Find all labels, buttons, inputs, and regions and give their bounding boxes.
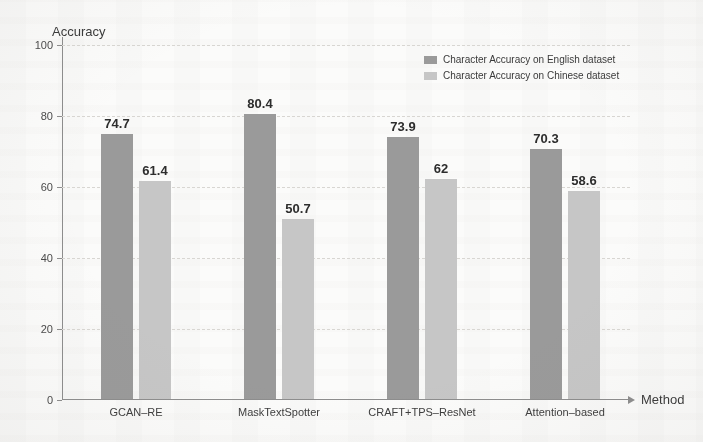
- bar-value-label: 70.3: [533, 131, 558, 146]
- legend-swatch: [424, 72, 437, 80]
- y-axis-tick-label: 80: [41, 110, 53, 122]
- bar-value-label: 74.7: [104, 116, 129, 131]
- x-axis-title: Method: [641, 392, 684, 407]
- legend-label: Character Accuracy on English dataset: [443, 54, 615, 65]
- y-axis-tick-mark: [57, 45, 62, 46]
- bar-value-label: 50.7: [285, 201, 310, 216]
- y-axis-tick-mark: [57, 258, 62, 259]
- plot-area: 020406080100 74.761.480.450.773.96270.35…: [62, 45, 630, 400]
- legend-label: Character Accuracy on Chinese dataset: [443, 70, 619, 81]
- x-axis-category-label: Attention–based: [525, 406, 605, 418]
- bar: 80.4: [244, 114, 276, 399]
- bar-value-label: 62: [434, 161, 448, 176]
- x-axis-line: [62, 399, 630, 400]
- bar-value-label: 61.4: [142, 163, 167, 178]
- bar-value-label: 73.9: [390, 119, 415, 134]
- x-axis-arrow-icon: [628, 396, 635, 404]
- legend-item: Character Accuracy on English dataset: [424, 53, 619, 66]
- bar-value-label: 58.6: [571, 173, 596, 188]
- y-axis-tick-mark: [57, 400, 62, 401]
- y-axis-tick-mark: [57, 329, 62, 330]
- y-axis-title: Accuracy: [52, 24, 105, 39]
- legend-swatch: [424, 56, 437, 64]
- x-axis-category-label: MaskTextSpotter: [238, 406, 320, 418]
- bar: 61.4: [139, 181, 171, 399]
- x-axis-category-label: CRAFT+TPS–ResNet: [368, 406, 475, 418]
- y-axis-line: [62, 37, 63, 400]
- bar: 73.9: [387, 137, 419, 399]
- y-axis-tick-label: 60: [41, 181, 53, 193]
- y-axis-tick-label: 0: [47, 394, 53, 406]
- y-axis-tick-label: 100: [35, 39, 53, 51]
- y-axis-tick-mark: [57, 187, 62, 188]
- chart-page: Accuracy Method 020406080100 74.761.480.…: [0, 0, 703, 442]
- bar: 50.7: [282, 219, 314, 399]
- y-axis-tick-label: 20: [41, 323, 53, 335]
- bar: 74.7: [101, 134, 133, 399]
- x-axis-category-label: GCAN–RE: [109, 406, 162, 418]
- chart-legend: Character Accuracy on English datasetCha…: [424, 53, 619, 85]
- bar: 70.3: [530, 149, 562, 399]
- gridline: [62, 116, 630, 117]
- bar: 58.6: [568, 191, 600, 399]
- y-axis-tick-label: 40: [41, 252, 53, 264]
- legend-item: Character Accuracy on Chinese dataset: [424, 69, 619, 82]
- bar-value-label: 80.4: [247, 96, 272, 111]
- gridline: [62, 45, 630, 46]
- bar: 62: [425, 179, 457, 399]
- y-axis-tick-mark: [57, 116, 62, 117]
